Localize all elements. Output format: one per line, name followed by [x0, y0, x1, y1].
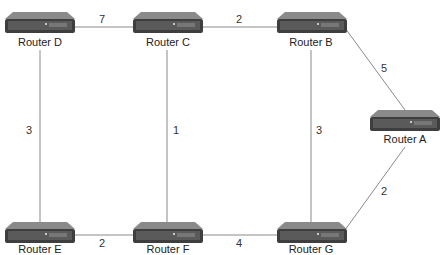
edge-f-g-weight: 4 — [236, 237, 242, 249]
router-b-label: Router B — [271, 36, 351, 48]
edge-b-a — [345, 28, 405, 110]
edge-d-e-weight: 3 — [26, 124, 32, 136]
edge-b-a-weight: 5 — [381, 62, 387, 74]
router-f-icon — [133, 222, 203, 244]
edge-c-f-weight: 1 — [173, 124, 179, 136]
router-a-label: Router A — [365, 133, 445, 145]
router-a-icon — [370, 110, 440, 132]
router-b-icon — [277, 12, 347, 34]
router-d-icon — [5, 12, 75, 34]
edge-c-b-weight: 2 — [236, 13, 242, 25]
router-c-label: Router C — [128, 36, 208, 48]
router-e-label: Router E — [0, 243, 80, 255]
network-diagram: Router D Router C Router B Router A Rout… — [0, 0, 448, 255]
edge-b-g-weight: 3 — [316, 124, 322, 136]
router-f-label: Router F — [128, 243, 208, 255]
router-d-label: Router D — [0, 36, 80, 48]
router-g-label: Router G — [271, 243, 351, 255]
router-e-icon — [5, 222, 75, 244]
router-g-icon — [277, 222, 347, 244]
edge-a-g — [345, 147, 405, 230]
edge-e-f-weight: 2 — [99, 237, 105, 249]
edge-a-g-weight: 2 — [381, 185, 387, 197]
edge-d-c-weight: 7 — [99, 13, 105, 25]
router-c-icon — [133, 12, 203, 34]
